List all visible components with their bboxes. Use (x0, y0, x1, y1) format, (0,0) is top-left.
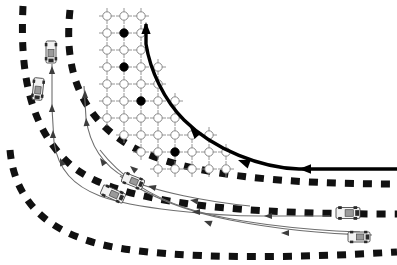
grid-node-filled (120, 63, 128, 71)
grid-node-open (188, 148, 196, 156)
grid-node (99, 59, 115, 75)
grid-node (99, 93, 115, 109)
grid-node (201, 144, 217, 160)
grid-node-open (137, 46, 145, 54)
traj-arrow-11 (264, 213, 272, 219)
grid-node-open (120, 131, 128, 139)
traj-arrow-13 (281, 230, 289, 236)
grid-node-open (120, 12, 128, 20)
vehicle-mid-right (120, 171, 145, 191)
traj-arrow-2 (49, 104, 55, 112)
grid-node-open (137, 114, 145, 122)
grid-node-open (154, 97, 162, 105)
grid-node-open (188, 165, 196, 173)
grid-node-open (137, 12, 145, 20)
grid-node-open (120, 46, 128, 54)
grid-node-open (103, 63, 111, 71)
grid-node-open (154, 114, 162, 122)
grid-node-open (103, 114, 111, 122)
grid-node-open (222, 165, 230, 173)
grid-node (150, 110, 166, 126)
grid-node (201, 161, 217, 177)
lane-boundary-outer-left (22, 6, 397, 214)
grid-node-open (205, 148, 213, 156)
grid-node-open (154, 148, 162, 156)
grid-node-open (103, 29, 111, 37)
grid-node (116, 93, 132, 109)
grid-node (133, 76, 149, 92)
grid-node-open (171, 165, 179, 173)
diagram-canvas: Curved multi-lane road scenario with dis… (0, 0, 397, 265)
grid-node (116, 59, 132, 75)
grid-node-open (154, 165, 162, 173)
grid-node (150, 161, 166, 177)
grid-node-open (154, 131, 162, 139)
grid-node (99, 76, 115, 92)
grid-node (116, 110, 132, 126)
grid-node (99, 8, 115, 24)
grid-node-open (137, 80, 145, 88)
grid-node-open (137, 63, 145, 71)
grid-node (116, 76, 132, 92)
grid-node-open (171, 131, 179, 139)
grid-node (184, 144, 200, 160)
traj-arrow-15 (128, 164, 138, 174)
traj-arrow-5 (82, 90, 88, 98)
grid-node-filled (171, 148, 179, 156)
grid-node (116, 25, 132, 41)
grid-node (116, 8, 132, 24)
grid-node-open (103, 80, 111, 88)
vehicle-lane1-lower (31, 77, 46, 100)
grid-node (99, 110, 115, 126)
grid-node-open (103, 46, 111, 54)
grid-node (150, 127, 166, 143)
grid-node (133, 59, 149, 75)
planned-path-group (141, 22, 397, 174)
vehicle-lane1-upper (45, 41, 57, 63)
traj-arrow-3 (50, 130, 56, 138)
grid-node (133, 93, 149, 109)
grid-node (116, 42, 132, 58)
path-arrow-head-top (141, 22, 150, 34)
grid-node (133, 8, 149, 24)
grid-node (99, 25, 115, 41)
path-arrow-head-right (299, 164, 311, 173)
grid-node (133, 127, 149, 143)
grid-node-open (154, 63, 162, 71)
scenario-svg (0, 0, 397, 265)
grid-node-open (120, 80, 128, 88)
grid-node-open (137, 148, 145, 156)
trajectory-lane1-vertical (52, 64, 330, 216)
grid-node-open (120, 114, 128, 122)
lane-boundary-middle (69, 10, 397, 184)
grid-node (167, 127, 183, 143)
grid-node-open (137, 131, 145, 139)
grid-node (133, 110, 149, 126)
vehicle-right-lower (348, 231, 370, 243)
vehicle-right-upper (336, 206, 360, 220)
grid-node-open (103, 12, 111, 20)
planning-grid-group (99, 8, 234, 177)
traj-arrow-6 (83, 118, 90, 127)
grid-node-open (205, 165, 213, 173)
ego-planned-path (146, 24, 397, 169)
traj-arrow-1 (49, 66, 55, 74)
grid-node-filled (120, 29, 128, 37)
grid-node-filled (137, 97, 145, 105)
grid-node-open (103, 97, 111, 105)
grid-node (167, 144, 183, 160)
grid-node (99, 42, 115, 58)
grid-node-open (120, 97, 128, 105)
traj-arrow-12 (203, 218, 213, 227)
